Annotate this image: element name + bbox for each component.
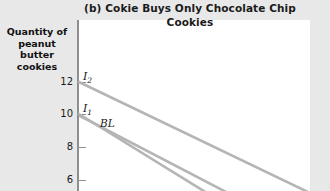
curve-label-bl: BL	[100, 117, 115, 129]
curve-label-i2: I2	[83, 70, 92, 85]
figure-panel-b: (b) Cokie Buys Only Chocolate Chip Cooki…	[0, 0, 330, 191]
curve-label-i1-sub: 1	[87, 108, 92, 117]
curve-label-i1: I1	[83, 102, 92, 117]
curve-label-i2-sub: 2	[87, 76, 92, 85]
curves-layer	[0, 0, 330, 191]
